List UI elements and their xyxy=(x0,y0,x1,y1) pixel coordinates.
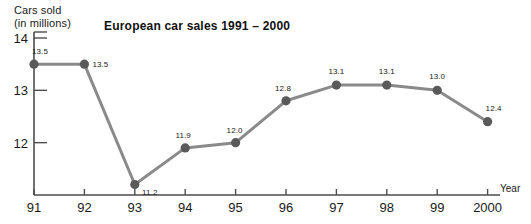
y-tick-label: 13 xyxy=(6,83,28,98)
plot-area xyxy=(0,0,531,224)
x-tick-label: 2000 xyxy=(473,200,502,215)
x-tick-label: 97 xyxy=(329,200,343,215)
data-point-label: 11.9 xyxy=(175,130,190,139)
data-point-label: 13.1 xyxy=(328,67,344,76)
chart-container: Cars sold (in millions) European car sal… xyxy=(0,0,531,224)
x-tick-label: 99 xyxy=(430,200,444,215)
x-tick-label: 92 xyxy=(77,200,91,215)
y-tick-label: 14 xyxy=(6,31,28,46)
x-tick-label: 98 xyxy=(380,200,394,215)
data-series-line xyxy=(34,64,488,184)
x-tick-label: 96 xyxy=(279,200,293,215)
x-tick-label: 91 xyxy=(27,200,41,215)
y-tick-label: 12 xyxy=(6,135,28,150)
x-tick-label: 93 xyxy=(128,200,142,215)
data-point-label: 13.1 xyxy=(379,67,395,76)
data-point-markers xyxy=(29,60,492,190)
data-point-label: 11.2 xyxy=(142,187,157,196)
data-point-label: 12.4 xyxy=(486,103,502,112)
data-point-label: 13.0 xyxy=(429,72,445,81)
x-tick-label: 95 xyxy=(228,200,242,215)
data-point-label: 12.0 xyxy=(227,125,243,134)
data-point-label: 13.5 xyxy=(32,47,48,56)
x-tick-label: 94 xyxy=(178,200,192,215)
data-point-label: 12.8 xyxy=(275,83,291,92)
data-point-label: 13.5 xyxy=(92,60,108,69)
